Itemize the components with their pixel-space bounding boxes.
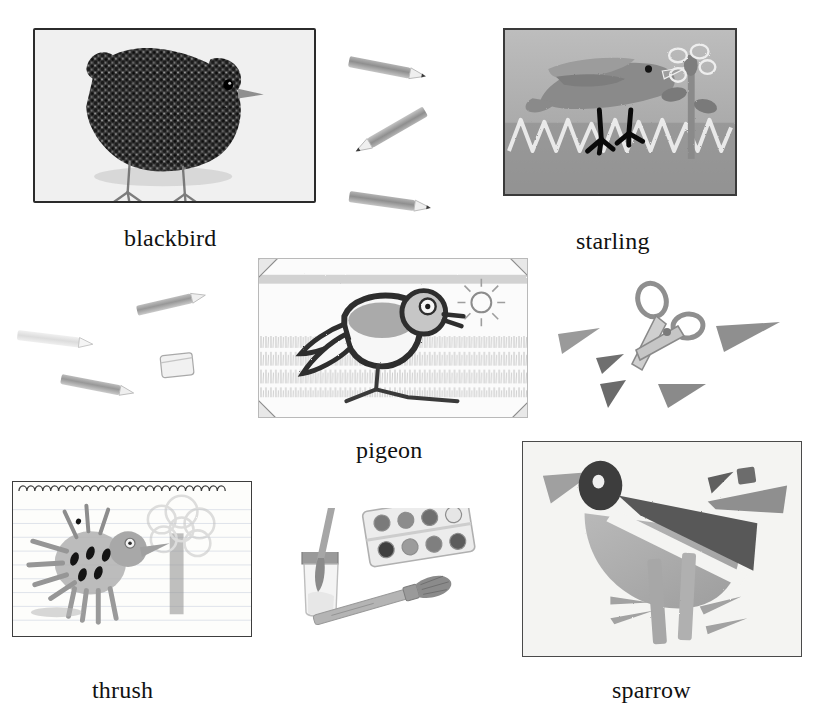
- paper-triangle-icon: [596, 354, 624, 374]
- drawing-frame-sparrow[interactable]: [522, 441, 802, 657]
- photo-corner-icon: [509, 258, 528, 279]
- caption-pigeon: pigeon: [356, 437, 423, 464]
- pencil-icon: [348, 191, 431, 213]
- drawing-frame-pigeon[interactable]: [258, 258, 528, 418]
- photo-corner-icon: [258, 399, 279, 418]
- caption-blackbird: blackbird: [124, 225, 216, 252]
- sparrow-artwork: [523, 442, 801, 656]
- art-supplies-pencils-top: [340, 48, 455, 223]
- pencil-icon: [348, 56, 427, 82]
- pencil-icon: [136, 292, 206, 316]
- pencil-icon: [353, 106, 428, 156]
- art-supplies-scissors-cutouts: [552, 280, 780, 414]
- paper-triangle-icon: [558, 328, 600, 354]
- paper-triangle-icon: [600, 380, 626, 408]
- paint-set-group-icon: [292, 508, 477, 670]
- drawing-frame-starling[interactable]: [503, 28, 737, 196]
- paint-palette-icon: [362, 508, 475, 567]
- drawing-frame-blackbird[interactable]: [33, 28, 316, 203]
- caption-thrush: thrush: [92, 677, 153, 704]
- pencil-icon: [60, 374, 135, 398]
- pencils-eraser-group-icon: [10, 292, 225, 407]
- pencils-group-icon: [340, 48, 455, 223]
- thrush-artwork: [13, 482, 251, 636]
- paper-triangle-icon: [658, 384, 706, 408]
- photo-corner-icon: [509, 399, 528, 418]
- caption-sparrow: sparrow: [612, 677, 691, 704]
- scissors-group-icon: [552, 280, 780, 414]
- caption-starling: starling: [576, 228, 650, 255]
- blackbird-artwork: [35, 30, 314, 201]
- drawing-frame-thrush[interactable]: [12, 481, 252, 637]
- pencil-icon: [17, 330, 94, 349]
- paper-triangle-icon: [716, 322, 780, 352]
- photo-corner-icon: [258, 258, 279, 279]
- art-supplies-pencils-eraser: [10, 292, 225, 407]
- eraser-icon: [160, 353, 194, 378]
- scissors-icon: [632, 280, 705, 370]
- pigeon-artwork: [259, 259, 527, 417]
- starling-artwork: [505, 30, 735, 194]
- worksheet-page: blackbird: [0, 0, 822, 727]
- art-supplies-paint-set: [292, 508, 477, 670]
